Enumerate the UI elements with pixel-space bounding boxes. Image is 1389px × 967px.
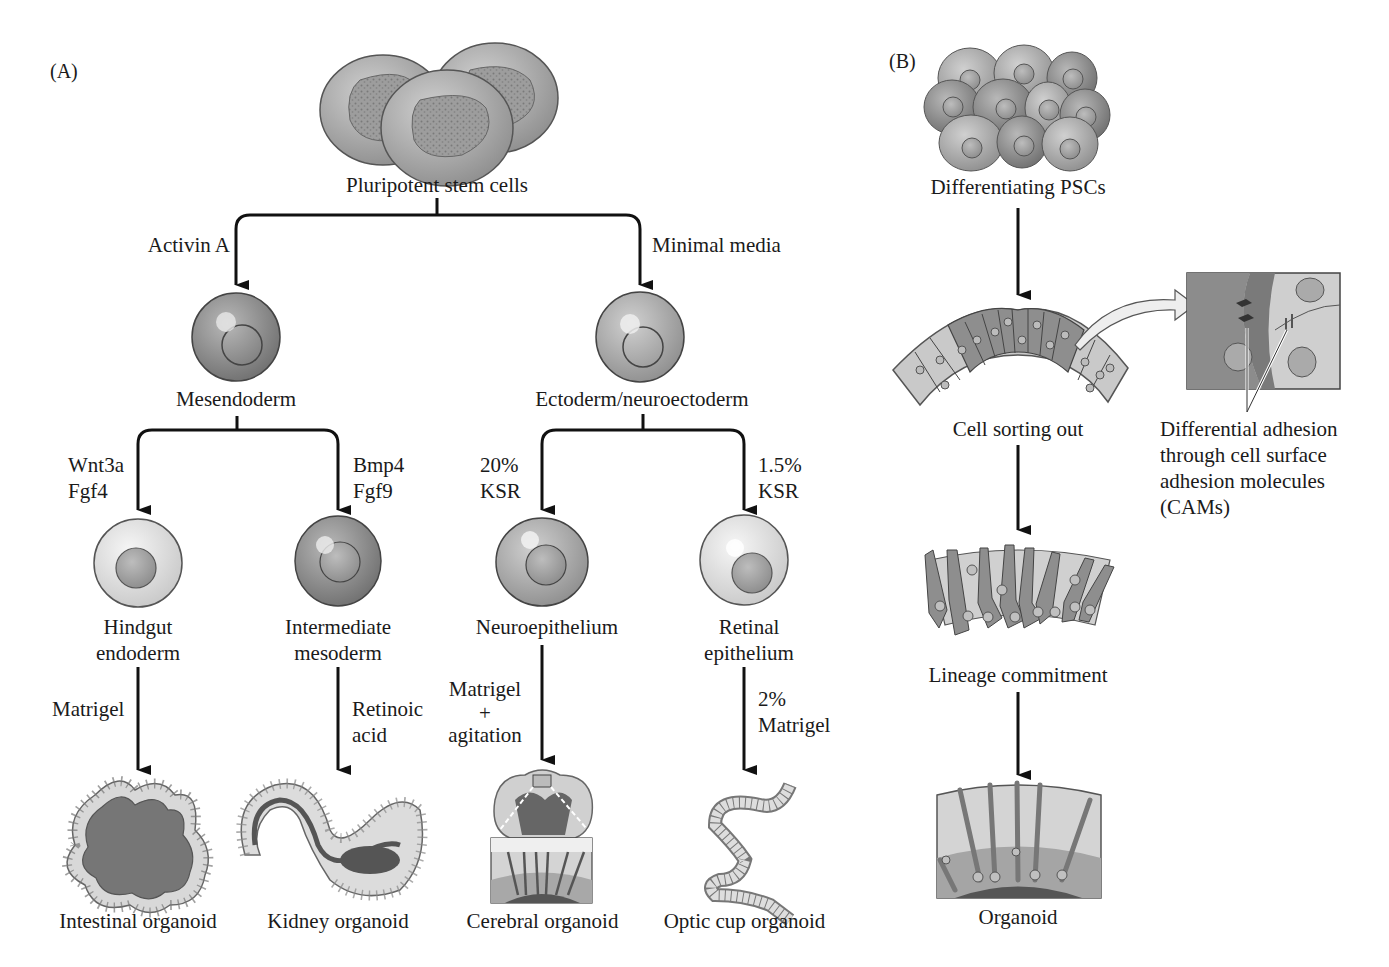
- pluripotent-stem-cells-illustration: [320, 43, 558, 186]
- endoderm-label: endoderm: [78, 640, 198, 666]
- lineage-commitment-label: Lineage commitment: [908, 662, 1128, 688]
- cams-callout-line4: (CAMs): [1160, 494, 1230, 520]
- mesendoderm-label: Mesendoderm: [136, 386, 336, 412]
- ectoderm-label: Ectoderm/neuroectoderm: [512, 386, 772, 412]
- matrigel-2pct-line2: Matrigel: [758, 712, 830, 738]
- organoid-illustration: [937, 783, 1101, 898]
- hindgut-label: Hindgut: [78, 614, 198, 640]
- ksr-15-unit-label: KSR: [758, 478, 799, 504]
- epithelium-label: epithelium: [684, 640, 814, 666]
- retinoic-label: Retinoic: [352, 696, 423, 722]
- ksr-20-label: 20%: [480, 452, 519, 478]
- cams-callout-line2: through cell surface: [1160, 442, 1327, 468]
- panel-b-label: (B): [889, 48, 916, 74]
- mesoderm-label: mesoderm: [268, 640, 408, 666]
- optic-cup-organoid-label: Optic cup organoid: [652, 908, 837, 934]
- retinal-label: Retinal: [684, 614, 814, 640]
- ksr-15-label: 1.5%: [758, 452, 802, 478]
- organoid-label: Organoid: [958, 904, 1078, 930]
- kidney-organoid-illustration: [241, 783, 422, 895]
- neuroepithelium-cell: [496, 518, 588, 606]
- cerebral-organoid-illustration: [491, 770, 592, 903]
- wnt3a-label: Wnt3a: [68, 452, 124, 478]
- cell-sorting-out-label: Cell sorting out: [928, 416, 1108, 442]
- intermediate-label: Intermediate: [268, 614, 408, 640]
- minimal-media-label: Minimal media: [652, 232, 781, 258]
- cams-callout-line1: Differential adhesion: [1160, 416, 1337, 442]
- ectoderm-cell: [596, 292, 684, 382]
- pluripotent-stem-cells-label: Pluripotent stem cells: [337, 172, 537, 198]
- matrigel-agitation-line1: Matrigel: [440, 676, 530, 702]
- hindgut-endoderm-cell: [94, 519, 182, 607]
- neuroepithelium-label: Neuroepithelium: [462, 614, 632, 640]
- bmp4-label: Bmp4: [353, 452, 404, 478]
- lineage-commitment-illustration: [925, 545, 1114, 635]
- fgf9-label: Fgf9: [353, 478, 393, 504]
- differentiating-pscs-label: Differentiating PSCs: [908, 174, 1128, 200]
- cams-callout-line3: adhesion molecules: [1160, 468, 1325, 494]
- ksr-20-unit-label: KSR: [480, 478, 521, 504]
- arrow-to-ectoderm: [437, 215, 640, 285]
- cell-sorting-illustration: [893, 308, 1128, 405]
- optic-cup-organoid-illustration: [711, 785, 790, 920]
- intestinal-organoid-label: Intestinal organoid: [48, 908, 228, 934]
- cam-adhesion-inset: [1187, 273, 1340, 389]
- kidney-organoid-label: Kidney organoid: [258, 908, 418, 934]
- acid-label: acid: [352, 722, 387, 748]
- cerebral-organoid-label: Cerebral organoid: [455, 908, 630, 934]
- intermediate-mesoderm-cell: [295, 516, 381, 606]
- arrow-to-mesendoderm: [236, 198, 437, 285]
- panel-a-label: (A): [50, 58, 78, 84]
- matrigel-2pct-line1: 2%: [758, 686, 786, 712]
- agitation-label: agitation: [440, 722, 530, 748]
- mesendoderm-cell: [192, 293, 280, 381]
- activin-a-label: Activin A: [130, 232, 230, 258]
- matrigel-label: Matrigel: [52, 696, 124, 722]
- intestinal-organoid-illustration: [67, 781, 208, 912]
- retinal-epithelium-cell: [700, 515, 788, 605]
- differentiating-pscs-illustration: [924, 45, 1110, 171]
- fgf4-label: Fgf4: [68, 478, 108, 504]
